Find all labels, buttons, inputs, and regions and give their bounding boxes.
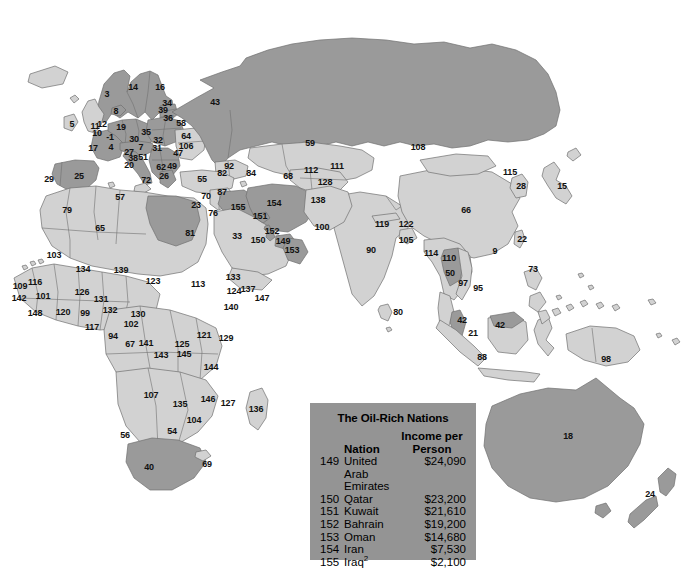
legend-title: The Oil-Rich Nations bbox=[320, 412, 466, 424]
legend-row: 153Oman$14,680 bbox=[320, 531, 466, 544]
legend-income: $2,100 bbox=[398, 556, 466, 569]
legend-footnote-marker: 2 bbox=[364, 554, 368, 563]
legend-nation: Kuwait bbox=[344, 505, 398, 518]
legend-nation: Iran bbox=[344, 543, 398, 556]
legend-row: 149United Arab Emirates$24,090 bbox=[320, 455, 466, 493]
legend-header-income-line1: Income per bbox=[401, 430, 462, 442]
legend-income: $14,680 bbox=[398, 531, 466, 544]
legend-table: Nation Income per Person 149United Arab … bbox=[320, 430, 466, 568]
legend-income: $23,200 bbox=[398, 493, 466, 506]
legend-rank: 150 bbox=[320, 493, 344, 506]
legend-row: 151Kuwait$21,610 bbox=[320, 505, 466, 518]
legend-rank: 149 bbox=[320, 455, 344, 493]
legend-header-income-line2: Person bbox=[413, 443, 452, 455]
legend-income: $24,090 bbox=[398, 455, 466, 493]
legend-nation: Oman bbox=[344, 531, 398, 544]
legend-row: 150Qatar$23,200 bbox=[320, 493, 466, 506]
legend-rank: 155 bbox=[320, 556, 344, 569]
legend-income: $21,610 bbox=[398, 505, 466, 518]
legend-rank: 153 bbox=[320, 531, 344, 544]
legend-header-rank bbox=[320, 430, 344, 455]
legend-row: 152Bahrain$19,200 bbox=[320, 518, 466, 531]
legend-income: $19,200 bbox=[398, 518, 466, 531]
legend-table-body: 149United Arab Emirates$24,090150Qatar$2… bbox=[320, 455, 466, 568]
legend-nation: Qatar bbox=[344, 493, 398, 506]
legend-header-row: Nation Income per Person bbox=[320, 430, 466, 455]
legend-nation: United Arab Emirates bbox=[344, 455, 398, 493]
legend-rank: 151 bbox=[320, 505, 344, 518]
legend-header-income: Income per Person bbox=[398, 430, 466, 455]
legend-table-head: Nation Income per Person bbox=[320, 430, 466, 455]
world-map-figure: .lt { fill:#d2d2d2; stroke:#707070; stro… bbox=[0, 0, 693, 579]
legend-rank: 154 bbox=[320, 543, 344, 556]
legend-row: 154Iran$7,530 bbox=[320, 543, 466, 556]
legend-nation: Iraq2 bbox=[344, 556, 398, 569]
legend-nation: Bahrain bbox=[344, 518, 398, 531]
legend-panel: The Oil-Rich Nations Nation Income per P… bbox=[310, 403, 476, 560]
legend-income: $7,530 bbox=[398, 543, 466, 556]
legend-header-nation: Nation bbox=[344, 430, 398, 455]
legend-rank: 152 bbox=[320, 518, 344, 531]
legend-row: 155Iraq2$2,100 bbox=[320, 556, 466, 569]
